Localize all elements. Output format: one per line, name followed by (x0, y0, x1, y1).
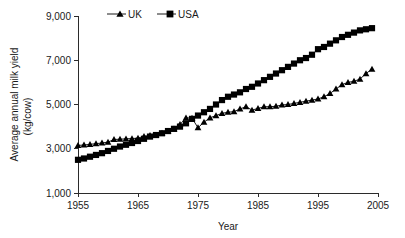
x-tick-label: 1985 (247, 200, 270, 211)
data-point-square (189, 116, 195, 122)
data-point-square (159, 130, 165, 136)
data-point-square (207, 106, 213, 112)
data-point-triangle (327, 90, 334, 96)
y-axis-title-line1: Average annual milk yield (9, 48, 20, 162)
data-point-square (171, 126, 177, 132)
data-point-square (237, 89, 243, 95)
data-point-triangle (363, 70, 370, 76)
data-point-square (147, 133, 153, 139)
data-point-square (291, 60, 297, 66)
data-point-square (105, 148, 111, 154)
data-point-square (87, 154, 93, 160)
data-point-square (111, 146, 117, 152)
data-point-square (285, 64, 291, 70)
x-axis-tick-group: 195519651975198519952005 (67, 193, 390, 211)
data-point-square (123, 142, 129, 148)
series-uk (75, 66, 376, 148)
data-point-triangle (321, 93, 328, 99)
data-point-square (99, 150, 105, 156)
data-point-square (219, 97, 225, 103)
data-point-triangle (333, 86, 340, 92)
data-point-square (309, 52, 315, 58)
data-point-square (351, 29, 357, 35)
data-point-square (225, 94, 231, 100)
data-point-square (327, 41, 333, 47)
data-point-square (357, 27, 363, 33)
data-point-square (255, 80, 261, 86)
y-tick-label: 7,000 (46, 55, 71, 66)
y-axis-title-line2: (kg/cow) (22, 98, 33, 136)
x-tick-label: 1995 (307, 200, 330, 211)
x-tick-label: 2005 (367, 200, 390, 211)
data-point-triangle (183, 114, 190, 120)
data-point-square (183, 120, 189, 126)
data-point-square (315, 46, 321, 52)
data-point-square (363, 26, 369, 32)
data-point-square (117, 143, 123, 149)
data-point-square (195, 112, 201, 118)
data-point-square (135, 138, 141, 144)
y-tick-label: 5,000 (46, 99, 71, 110)
data-point-triangle (243, 103, 250, 109)
data-point-square (267, 74, 273, 80)
x-axis-title: Year (218, 221, 239, 232)
data-point-square (81, 155, 87, 161)
data-point-square (153, 132, 159, 138)
data-point-square (213, 101, 219, 107)
data-point-square (177, 124, 183, 130)
data-point-triangle (231, 108, 238, 114)
data-point-square (129, 140, 135, 146)
data-point-square (339, 34, 345, 40)
data-point-square (249, 84, 255, 90)
x-tick-label: 1975 (187, 200, 210, 211)
legend-uk-label: UK (128, 9, 142, 20)
data-point-square (333, 37, 339, 43)
legend-entry-usa: USA (157, 9, 199, 20)
data-point-square (303, 55, 309, 61)
data-point-square (75, 157, 81, 163)
data-point-square (369, 25, 375, 31)
data-point-square (201, 109, 207, 115)
chart-figure: 1,0003,0005,0007,0009,000 19551965197519… (0, 0, 405, 238)
data-point-square (273, 70, 279, 76)
data-point-square (321, 44, 327, 50)
data-point-square (165, 128, 171, 134)
data-point-triangle (105, 139, 112, 145)
data-point-square (243, 86, 249, 92)
legend-usa-label: USA (178, 9, 199, 20)
chart-legend: UK USA (107, 9, 199, 20)
data-point-triangle (201, 119, 208, 125)
data-point-square (261, 77, 267, 83)
y-tick-label: 3,000 (46, 143, 71, 154)
y-tick-label: 1,000 (46, 188, 71, 199)
data-point-square (93, 152, 99, 158)
y-tick-label: 9,000 (46, 11, 71, 22)
data-point-square (279, 67, 285, 73)
data-point-square (231, 91, 237, 97)
data-series-layer (75, 25, 376, 163)
legend-entry-uk: UK (107, 9, 142, 20)
data-point-triangle (369, 66, 376, 72)
x-tick-label: 1955 (67, 200, 90, 211)
legend-usa-square-icon (167, 11, 174, 18)
milk-yield-line-chart: 1,0003,0005,0007,0009,000 19551965197519… (0, 0, 405, 238)
data-point-square (345, 32, 351, 38)
data-point-square (141, 136, 147, 142)
data-point-square (297, 57, 303, 63)
x-tick-label: 1965 (127, 200, 150, 211)
y-axis-tick-group: 1,0003,0005,0007,0009,000 (46, 11, 78, 199)
